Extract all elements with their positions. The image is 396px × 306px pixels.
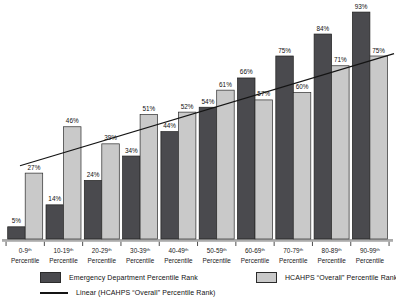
- bar-value-label: 27%: [28, 164, 41, 171]
- bar-hcahps-overall: [370, 56, 388, 239]
- hcahps-overall-swatch: [256, 272, 277, 283]
- bar-emergency-dept: [8, 227, 26, 239]
- category-label: 70-79th: [283, 247, 304, 254]
- bar-value-label: 51%: [142, 105, 155, 112]
- category-label-line2: Percentile: [356, 257, 385, 264]
- emergency-dept-swatch: [40, 272, 61, 283]
- category-label-line2: Percentile: [126, 257, 155, 264]
- x-axis-line: [2, 239, 393, 242]
- bar-emergency-dept: [199, 107, 217, 239]
- bar-chart: 5%27%0-9thPercentile14%46%10-19thPercent…: [0, 0, 396, 268]
- bar-hcahps-overall: [178, 112, 196, 239]
- category-label: 40-49th: [168, 247, 189, 254]
- bar-value-label: 5%: [12, 217, 22, 224]
- bar-hcahps-overall: [25, 173, 43, 239]
- bar-hcahps-overall: [255, 100, 273, 239]
- category-label-line2: Percentile: [317, 257, 346, 264]
- category-label-line2: Percentile: [279, 257, 308, 264]
- bar-hcahps-overall: [64, 127, 82, 239]
- bar-hcahps-overall: [102, 144, 120, 239]
- category-label: 30-39th: [130, 247, 151, 254]
- bar-value-label: 44%: [163, 122, 176, 129]
- bar-emergency-dept: [276, 56, 294, 239]
- bar-value-label: 71%: [334, 56, 347, 63]
- bar-value-label: 93%: [355, 3, 368, 10]
- category-label: 0-9th: [19, 247, 32, 254]
- category-label-line2: Percentile: [241, 257, 270, 264]
- category-label-line2: Percentile: [202, 257, 231, 264]
- bar-value-label: 14%: [48, 195, 61, 202]
- category-label: 20-29th: [92, 247, 113, 254]
- trendline-legend-label: Linear (HCAHPS “Overall” Percentile Rank…: [76, 289, 215, 296]
- bar-value-label: 52%: [181, 103, 194, 110]
- category-label-line2: Percentile: [164, 257, 193, 264]
- category-label-line2: Percentile: [88, 257, 117, 264]
- bar-hcahps-overall: [332, 66, 350, 239]
- bar-value-label: 34%: [125, 147, 138, 154]
- bar-value-label: 66%: [240, 68, 253, 75]
- bar-value-label: 75%: [278, 47, 291, 54]
- category-label: 10-19th: [54, 247, 75, 254]
- category-label-line2: Percentile: [11, 257, 40, 264]
- bar-emergency-dept: [84, 180, 102, 239]
- bar-value-label: 46%: [66, 117, 79, 124]
- bar-hcahps-overall: [217, 90, 235, 239]
- bar-value-label: 54%: [202, 98, 215, 105]
- category-label-line2: Percentile: [49, 257, 78, 264]
- bar-hcahps-overall: [293, 93, 311, 239]
- bar-emergency-dept: [352, 12, 370, 239]
- bar-emergency-dept: [314, 34, 332, 239]
- bar-value-label: 84%: [316, 25, 329, 32]
- legend-row-series: Emergency Department Percentile Rank HCA…: [40, 272, 368, 283]
- bar-hcahps-overall: [140, 115, 158, 239]
- category-label: 80-89th: [322, 247, 343, 254]
- bar-emergency-dept: [161, 132, 179, 239]
- emergency-dept-legend-label: Emergency Department Percentile Rank: [69, 274, 198, 281]
- trendline-swatch: [40, 292, 68, 294]
- bar-value-label: 75%: [372, 47, 385, 54]
- bar-emergency-dept: [123, 156, 141, 239]
- chart-legend: Emergency Department Percentile Rank HCA…: [0, 272, 396, 296]
- category-label: 60-69th: [245, 247, 266, 254]
- category-label: 50-59th: [207, 247, 228, 254]
- category-label: 90-99th: [360, 247, 381, 254]
- bar-value-label: 60%: [296, 83, 309, 90]
- bar-value-label: 24%: [87, 171, 100, 178]
- bar-value-label: 61%: [219, 81, 232, 88]
- hcahps-overall-legend-label: HCAHPS “Overall” Percentile Rank: [285, 274, 396, 281]
- bar-emergency-dept: [46, 205, 64, 239]
- percentile-rank-bar-chart-figure: 5%27%0-9thPercentile14%46%10-19thPercent…: [0, 0, 396, 306]
- legend-row-trendline: Linear (HCAHPS “Overall” Percentile Rank…: [40, 289, 368, 296]
- bar-emergency-dept: [238, 78, 256, 239]
